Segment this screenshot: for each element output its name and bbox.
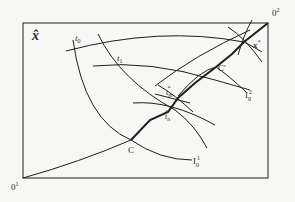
origin-1-label: 01 <box>11 181 19 192</box>
contract-curve-upper <box>131 23 268 140</box>
point-C-prime-label: C' <box>218 63 226 73</box>
label-x-star: x* <box>252 39 261 50</box>
label-t1: t1 <box>117 53 123 64</box>
label-I0-1: I10 <box>193 155 200 168</box>
box-frame <box>23 23 268 178</box>
contract-curve-lower <box>23 140 131 178</box>
edgeworth-box-diagram: x̂ 01 02 t0 t1 tm* tn* x* C C' I20 I10 <box>0 0 295 202</box>
curve-t1 <box>93 65 250 90</box>
origin-2-label: 02 <box>272 7 280 18</box>
label-t0: t0 <box>75 33 81 44</box>
point-C-label: C <box>128 145 134 155</box>
curve-tn <box>133 103 215 125</box>
label-I0-2: I20 <box>245 89 252 102</box>
corner-label-xhat: x̂ <box>31 28 39 43</box>
curve-t1-descending <box>98 34 207 148</box>
label-tm-star: tm* <box>166 85 173 98</box>
curve-I02 <box>178 67 246 96</box>
curve-t0-I01 <box>73 40 192 160</box>
